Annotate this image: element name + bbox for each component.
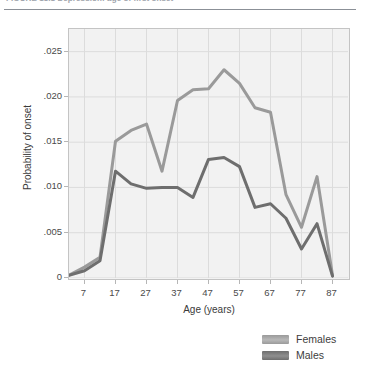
x-tick-label: 37 — [162, 288, 192, 298]
x-tick-mark — [177, 280, 178, 284]
caption-divider — [4, 9, 356, 10]
x-tick-label: 87 — [317, 288, 347, 298]
x-tick-mark — [239, 280, 240, 284]
plot-svg — [69, 29, 348, 278]
y-tick-label: .020 — [10, 91, 62, 101]
figure-caption: FIGURE 13.1 Depression: age of first ons… — [6, 0, 173, 3]
y-tick-label: .015 — [10, 136, 62, 146]
plot-area — [68, 28, 350, 280]
line-males — [69, 158, 333, 277]
legend-item-females: Females — [262, 332, 366, 346]
x-tick-label: 67 — [255, 288, 285, 298]
x-tick-label: 47 — [193, 288, 223, 298]
x-tick-mark — [208, 280, 209, 284]
y-tick-label: .025 — [10, 46, 62, 56]
x-tick-mark — [332, 280, 333, 284]
legend-swatch-females — [262, 335, 289, 344]
legend-swatch-males — [262, 351, 289, 360]
legend-label-males: Males — [296, 350, 324, 361]
x-tick-mark — [301, 280, 302, 284]
x-tick-label: 7 — [69, 288, 99, 298]
x-tick-mark — [115, 280, 116, 284]
figure-caption-strip: FIGURE 13.1 Depression: age of first ons… — [0, 0, 366, 11]
x-tick-label: 17 — [100, 288, 130, 298]
legend-item-males: Males — [262, 348, 366, 362]
x-tick-label: 57 — [224, 288, 254, 298]
y-tick-label: 0 — [10, 272, 62, 282]
x-tick-mark — [84, 280, 85, 284]
y-tick-label: .005 — [10, 227, 62, 237]
y-tick-label: .010 — [10, 181, 62, 191]
x-axis-label: Age (years) — [68, 304, 350, 315]
x-tick-mark — [146, 280, 147, 284]
legend-label-females: Females — [296, 334, 336, 345]
chart-container: Probability of onset 0.005.010.015.020.0… — [0, 14, 366, 314]
x-tick-label: 77 — [286, 288, 316, 298]
x-tick-mark — [270, 280, 271, 284]
chart-legend: Females Males — [262, 332, 366, 364]
data-lines — [69, 70, 333, 276]
line-females — [69, 70, 333, 276]
x-tick-label: 27 — [131, 288, 161, 298]
